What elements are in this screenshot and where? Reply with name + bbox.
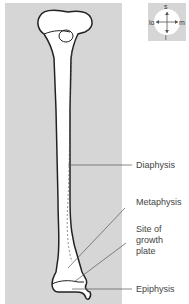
label-epiphysis: Epiphysis [136,284,175,295]
tibia-illustration [0,0,189,304]
compass-medial: m [179,19,185,26]
compass-inferior: i [165,34,167,41]
label-diaphysis: Diaphysis [136,160,175,171]
label-growth-plate: Site of growth plate [136,224,163,257]
compass-superior: s [164,3,168,10]
label-metaphysis: Metaphysis [136,197,182,208]
compass-lateral: lo [149,19,154,26]
orientation-compass: s i lo m [148,3,186,41]
